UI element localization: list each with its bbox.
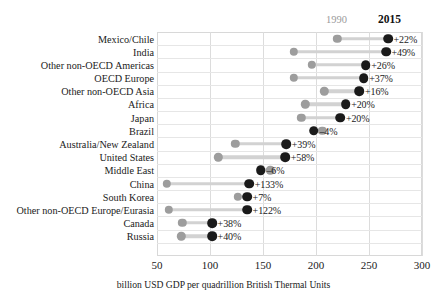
dot-1990 (162, 179, 170, 187)
connector-line (337, 37, 388, 40)
data-row: +20% (157, 111, 422, 124)
dot-2015 (242, 192, 252, 202)
data-row: –6% (157, 164, 422, 177)
x-tick-50: 50 (152, 259, 163, 271)
dot-2015 (280, 152, 290, 162)
data-row: +38% (157, 216, 422, 229)
dot-1990 (297, 113, 305, 121)
connector-line (169, 208, 247, 211)
data-row: +37% (157, 72, 422, 85)
dot-2015 (256, 166, 266, 176)
change-label: +49% (391, 46, 415, 57)
data-row: +58% (157, 151, 422, 164)
change-label: +133% (255, 178, 283, 189)
change-label: +122% (253, 204, 281, 215)
dot-1990 (320, 87, 328, 95)
dot-2015 (361, 60, 371, 70)
connector-line (218, 155, 285, 158)
change-label: +16% (365, 86, 389, 97)
dot-2015 (309, 126, 319, 136)
data-row: +16% (157, 85, 422, 98)
dot-2015 (359, 73, 369, 83)
x-tick-100: 100 (202, 259, 219, 271)
dot-1990 (290, 48, 298, 56)
x-tick-250: 250 (361, 259, 378, 271)
dot-2015 (207, 231, 217, 241)
dot-2015 (381, 47, 391, 57)
dot-1990 (178, 219, 186, 227)
dot-2015 (336, 113, 346, 123)
x-tick-300: 300 (414, 259, 431, 271)
dumbbell-chart: 1990 2015 +22%+49%+26%+37%+16%+20%+20%–4… (0, 0, 447, 298)
x-axis-title: billion USD GDP per quadrillion British … (0, 279, 447, 290)
dot-1990 (301, 100, 309, 108)
category-label: United States (99, 152, 154, 163)
plot-area: +22%+49%+26%+37%+16%+20%+20%–4%+39%+58%–… (157, 32, 422, 256)
x-tick-200: 200 (308, 259, 325, 271)
category-label: China (130, 178, 154, 189)
category-label: Canada (123, 218, 154, 229)
data-row: +133% (157, 177, 422, 190)
dot-1990 (333, 34, 341, 42)
gridline-x-300 (422, 32, 423, 256)
dot-1990 (231, 140, 239, 148)
dot-2015 (355, 86, 365, 96)
change-label: +7% (253, 191, 272, 202)
legend-label-2015: 2015 (378, 13, 401, 25)
dot-2015 (341, 100, 351, 110)
dot-1990 (177, 232, 185, 240)
dot-1990 (214, 153, 222, 161)
change-label: +20% (351, 99, 375, 110)
change-label: +39% (292, 138, 316, 149)
dot-2015 (383, 34, 393, 44)
connector-line (305, 103, 345, 106)
connector-line (301, 116, 340, 119)
data-row: +7% (157, 190, 422, 203)
connector-line (294, 76, 364, 79)
data-row: +26% (157, 58, 422, 71)
dot-1990 (233, 192, 241, 200)
dot-2015 (207, 218, 217, 228)
change-label: +38% (218, 218, 242, 229)
x-tick-150: 150 (255, 259, 272, 271)
category-label: South Korea (103, 191, 154, 202)
category-label: Middle East (104, 165, 154, 176)
dot-2015 (244, 179, 254, 189)
change-label: +22% (394, 33, 418, 44)
category-label: India (133, 46, 154, 57)
change-label: +40% (218, 231, 242, 242)
data-row: +49% (157, 45, 422, 58)
category-label: Russia (127, 231, 154, 242)
category-label: Brazil (129, 125, 154, 136)
category-label: OECD Europe (94, 73, 154, 84)
change-label: –6% (266, 165, 284, 176)
connector-line (294, 50, 386, 53)
category-label: Other non-OECD Europe/Eurasia (17, 204, 155, 215)
change-label: +58% (291, 152, 315, 163)
data-row: +39% (157, 137, 422, 150)
data-row: +22% (157, 32, 422, 45)
gridline-row (157, 243, 422, 244)
dot-1990 (290, 74, 298, 82)
connector-line (167, 182, 250, 185)
dot-1990 (308, 61, 316, 69)
legend-label-1990: 1990 (326, 14, 347, 25)
change-label: +26% (371, 59, 395, 70)
category-label: Australia/New Zealand (59, 139, 154, 150)
connector-line (235, 142, 286, 145)
category-label: Mexico/Chile (98, 33, 154, 44)
change-label: –4% (319, 125, 337, 136)
data-row: +40% (157, 230, 422, 243)
data-row: +122% (157, 203, 422, 216)
dot-2015 (282, 139, 292, 149)
category-label: Japan (131, 112, 154, 123)
dot-2015 (242, 205, 252, 215)
change-label: +37% (369, 73, 393, 84)
category-label: Africa (128, 99, 154, 110)
data-row: –4% (157, 124, 422, 137)
data-row: +20% (157, 98, 422, 111)
category-label: Other non-OECD Americas (41, 59, 154, 70)
change-label: +20% (346, 112, 370, 123)
connector-line (312, 63, 366, 66)
dot-1990 (164, 206, 172, 214)
